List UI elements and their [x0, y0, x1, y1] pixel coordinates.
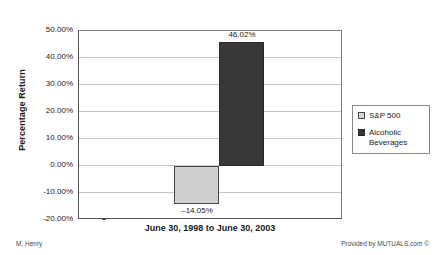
legend-label-line1: Alcoholic [369, 128, 401, 137]
legend-swatch-icon-alcoholic-beverages [358, 129, 365, 136]
y-tick-label: 40.00% [28, 53, 73, 61]
y-tick-label: -10.00% [28, 188, 73, 196]
chart-legend: S&P 500 Alcoholic Beverages [352, 105, 430, 154]
y-tick-label: 10.00% [28, 134, 73, 142]
gridline [79, 138, 341, 139]
legend-item-sp500[interactable]: S&P 500 [358, 111, 425, 121]
legend-item-alcoholic-beverages[interactable]: Alcoholic Beverages [358, 128, 425, 148]
y-tick-mark [102, 219, 106, 220]
bar-sp500[interactable] [174, 166, 219, 204]
y-tick-label: 0.00% [28, 161, 73, 169]
y-tick-label: 20.00% [28, 107, 73, 115]
footer-credit: Provided by MUTUALS.com © [341, 240, 429, 247]
legend-label-line2: Beverages [369, 138, 407, 147]
y-axis-tick-labels: 50.00% 40.00% 30.00% 20.00% 10.00% 0.00%… [28, 30, 73, 219]
bar-alcoholic-beverages[interactable] [219, 42, 264, 166]
legend-label-sp500: S&P 500 [369, 111, 400, 121]
gridline [79, 57, 341, 58]
y-tick-label: 30.00% [28, 80, 73, 88]
chart-plot-area: 46.02% –14.05% [78, 30, 342, 219]
y-tick-label: 50.00% [28, 26, 73, 34]
legend-swatch-icon-sp500 [358, 112, 365, 119]
legend-label-alcoholic-beverages: Alcoholic Beverages [369, 128, 407, 148]
data-label-alcoholic-beverages: 46.02% [202, 30, 282, 39]
y-axis-title-text: Percentage Return [17, 69, 27, 151]
x-axis-title: June 30, 1998 to June 30, 2003 [78, 223, 342, 233]
footer-author: M. Henry [16, 240, 42, 247]
y-tick-label: -20.00% [28, 215, 73, 223]
gridline [79, 111, 341, 112]
gridline [79, 84, 341, 85]
data-label-sp500: –14.05% [157, 206, 237, 215]
